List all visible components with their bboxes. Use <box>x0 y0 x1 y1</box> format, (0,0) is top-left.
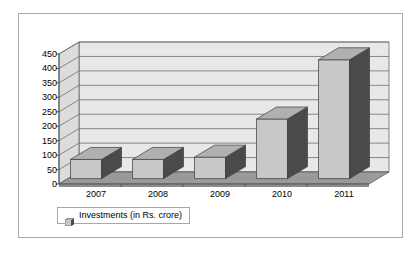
x-tick-label: 2010 <box>262 190 302 199</box>
x-axis-labels: 20072008200920102011 <box>19 14 404 239</box>
plot-area: 050100150200250300350400450 200720082009… <box>19 14 404 239</box>
legend-swatch-icon <box>65 212 74 220</box>
x-tick-label: 2009 <box>200 190 240 199</box>
x-tick-label: 2011 <box>324 190 364 199</box>
x-tick-label: 2007 <box>76 190 116 199</box>
chart-legend: Investments (in Rs. crore) <box>57 207 190 224</box>
chart-frame: 050100150200250300350400450 200720082009… <box>18 13 403 238</box>
x-tick-label: 2008 <box>138 190 178 199</box>
legend-label: Investments (in Rs. crore) <box>79 211 182 220</box>
